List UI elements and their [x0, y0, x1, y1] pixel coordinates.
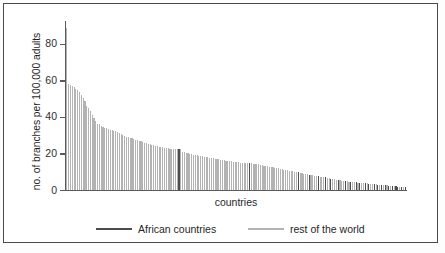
y-tick-label: 60	[30, 75, 57, 86]
legend-entry-rest-of-the-world[interactable]: rest of the world	[248, 221, 365, 237]
x-axis-spine	[65, 190, 407, 191]
legend-swatch-line-icon	[248, 228, 284, 230]
legend-swatch-line-icon	[96, 228, 132, 230]
y-tick-label: 20	[30, 148, 57, 159]
y-tick-label-text: 80	[30, 38, 57, 49]
y-tick-label-text: 40	[30, 111, 57, 122]
y-tick-label: 80	[30, 38, 57, 49]
y-tick-mark	[60, 44, 65, 45]
y-tick-mark	[60, 153, 65, 154]
legend-label: African countries	[138, 223, 216, 235]
chart-bar	[405, 187, 406, 190]
plot-area	[66, 22, 406, 190]
legend-label: rest of the world	[290, 223, 365, 235]
y-tick-label-text: 0	[30, 185, 57, 196]
y-tick-label-text: 20	[30, 148, 57, 159]
x-axis-title: countries	[66, 196, 406, 208]
y-tick-label: 0	[30, 185, 57, 196]
y-axis-title-holder: no. of branches per 100,000 adults	[12, 14, 30, 194]
y-tick-mark	[60, 190, 65, 191]
y-tick-label: 40	[30, 111, 57, 122]
chart-legend: African countriesrest of the world	[66, 221, 406, 237]
y-tick-mark	[60, 80, 65, 81]
y-tick-label-text: 60	[30, 75, 57, 86]
y-tick-mark	[60, 117, 65, 118]
figure-canvas: no. of branches per 100,000 adults 02040…	[0, 0, 445, 253]
legend-entry-african-countries[interactable]: African countries	[96, 221, 216, 237]
